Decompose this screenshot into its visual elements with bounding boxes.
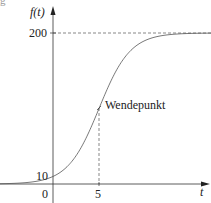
y-axis-label: f(t) — [30, 5, 45, 19]
y-tick-label-200: 200 — [29, 26, 47, 40]
inflection-label: Wendepunkt — [105, 98, 166, 112]
y-tick-label-10: 10 — [36, 169, 48, 183]
x-axis-label: t — [200, 185, 204, 199]
x-tick-label-0: 0 — [42, 187, 48, 201]
logistic-chart: g f(t) 200 10 0 5 t Wendepunkt — [0, 0, 211, 203]
cut-off-text: g — [0, 0, 6, 6]
x-tick-label-5: 5 — [95, 187, 101, 201]
y-axis-arrow-icon — [51, 6, 56, 15]
